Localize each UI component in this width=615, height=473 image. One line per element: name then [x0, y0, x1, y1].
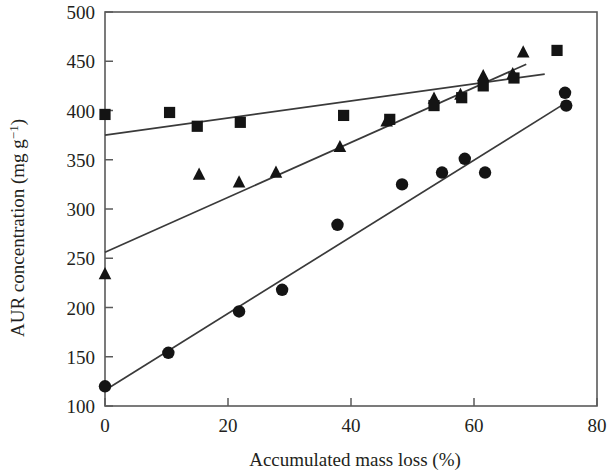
data-point-circle [559, 87, 571, 99]
data-point-circle [396, 178, 408, 190]
data-point-square [235, 117, 246, 128]
x-tick-label: 80 [588, 415, 607, 436]
data-markers [99, 45, 573, 393]
y-tick-labels: 100150200250300350400450500 [67, 2, 96, 417]
y-tick-label: 350 [67, 150, 96, 171]
data-point-square [164, 107, 175, 118]
data-point-circle [233, 305, 245, 317]
x-tick-label: 60 [465, 415, 484, 436]
data-point-triangle [477, 69, 490, 81]
plot-frame [105, 12, 597, 406]
y-tick-label: 100 [67, 396, 96, 417]
chart-figure: 100150200250300350400450500 020406080 Ac… [0, 0, 615, 473]
x-tick-labels: 020406080 [100, 415, 606, 436]
data-point-circle [560, 99, 572, 111]
data-point-triangle [428, 92, 441, 104]
data-point-triangle [233, 175, 246, 187]
y-axis-ticks [105, 12, 113, 406]
trend-line-circles [105, 101, 569, 391]
data-point-circle [276, 284, 288, 296]
y-tick-label: 300 [67, 199, 96, 220]
x-tick-label: 20 [219, 415, 238, 436]
data-point-circle [99, 380, 111, 392]
data-point-square [338, 110, 349, 121]
data-point-triangle [517, 45, 530, 57]
data-point-square [99, 109, 110, 120]
x-axis-title: Accumulated mass loss (%) [249, 449, 461, 471]
x-tick-label: 0 [100, 415, 110, 436]
scatter-plot: 100150200250300350400450500 020406080 Ac… [0, 0, 615, 473]
data-point-triangle [99, 267, 112, 279]
x-tick-label: 40 [342, 415, 361, 436]
data-point-triangle [270, 165, 283, 177]
y-tick-label: 450 [67, 51, 96, 72]
y-tick-label: 150 [67, 347, 96, 368]
y-tick-label: 500 [67, 2, 96, 23]
data-point-circle [459, 153, 471, 165]
data-point-circle [479, 166, 491, 178]
data-point-triangle [193, 167, 206, 179]
x-axis-ticks [105, 398, 597, 406]
data-point-circle [162, 347, 174, 359]
y-tick-label: 250 [67, 248, 96, 269]
y-tick-label: 400 [67, 101, 96, 122]
data-point-circle [331, 219, 343, 231]
y-axis-title-text: AUR concentration (mg g−1) [6, 119, 29, 337]
data-point-square [478, 80, 489, 91]
data-point-circle [436, 166, 448, 178]
data-point-square [551, 45, 562, 56]
y-tick-label: 200 [67, 298, 96, 319]
data-point-square [192, 121, 203, 132]
y-axis-title: AUR concentration (mg g−1) [6, 119, 29, 337]
